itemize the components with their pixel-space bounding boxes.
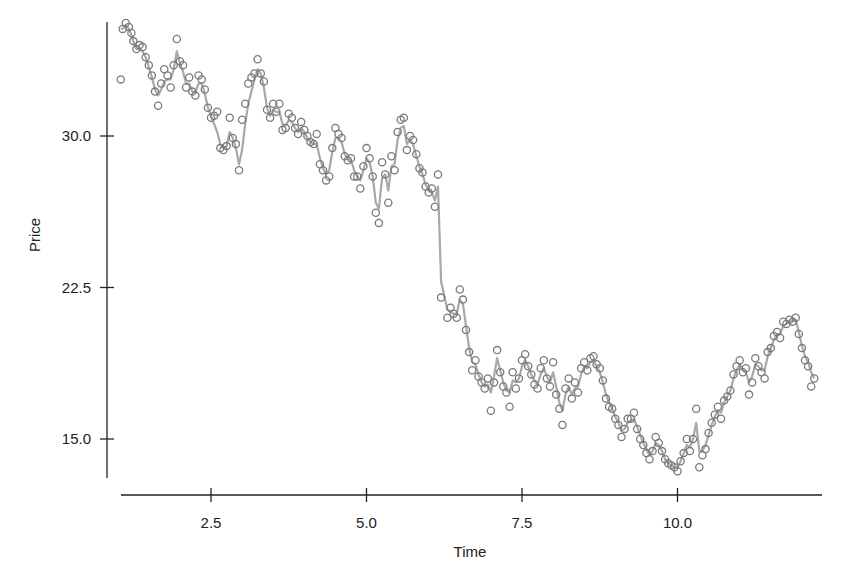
y-axis: 15.022.530.0 Price	[26, 22, 114, 478]
data-point-marker	[512, 385, 519, 392]
data-point-marker	[363, 145, 370, 152]
data-point-marker	[646, 456, 653, 463]
x-axis-title: Time	[454, 543, 487, 560]
data-point-marker	[226, 114, 233, 121]
data-point-marker	[574, 389, 581, 396]
x-tick-label: 5.0	[356, 514, 377, 531]
data-point-marker	[811, 375, 818, 382]
data-point-marker	[618, 433, 625, 440]
data-point-marker	[431, 203, 438, 210]
x-axis: 2.55.07.510.0 Time	[121, 488, 822, 560]
data-point-marker	[164, 72, 171, 79]
data-point-marker	[298, 118, 305, 125]
data-point-marker	[357, 185, 364, 192]
data-point-marker	[388, 153, 395, 160]
data-point-marker	[630, 409, 637, 416]
data-point-marker	[571, 379, 578, 386]
y-tick-label: 15.0	[62, 430, 91, 447]
data-point-marker	[117, 76, 124, 83]
data-point-marker	[714, 403, 721, 410]
smoothed-line	[121, 25, 815, 467]
data-point-marker	[379, 159, 386, 166]
data-point-marker	[522, 351, 529, 358]
data-point-marker	[717, 415, 724, 422]
y-tick-label: 22.5	[62, 279, 91, 296]
data-point-marker	[313, 130, 320, 137]
data-point-marker	[506, 403, 513, 410]
data-point-marker	[752, 355, 759, 362]
x-tick-label: 2.5	[201, 514, 222, 531]
data-point-marker	[254, 56, 261, 63]
data-point-marker	[469, 367, 476, 374]
data-point-marker	[235, 167, 242, 174]
data-point-marker	[186, 74, 193, 81]
data-point-marker	[173, 35, 180, 42]
plot-area	[117, 19, 818, 475]
x-tick-label: 7.5	[512, 514, 533, 531]
data-point-marker	[509, 369, 516, 376]
data-point-marker	[693, 405, 700, 412]
data-point-marker	[559, 421, 566, 428]
data-point-marker	[372, 209, 379, 216]
data-point-marker	[375, 219, 382, 226]
data-point-marker	[155, 102, 162, 109]
y-axis-ticks: 15.022.530.0	[62, 127, 114, 447]
data-point-marker	[456, 286, 463, 293]
data-point-marker	[540, 357, 547, 364]
observed-markers	[117, 19, 818, 475]
data-point-marker	[696, 464, 703, 471]
y-axis-title: Price	[26, 218, 43, 252]
x-tick-label: 10.0	[663, 514, 692, 531]
data-point-marker	[487, 407, 494, 414]
data-point-marker	[550, 359, 557, 366]
data-point-marker	[403, 147, 410, 154]
data-point-marker	[761, 375, 768, 382]
data-point-marker	[808, 383, 815, 390]
data-point-marker	[736, 357, 743, 364]
price-time-chart: 15.022.530.0 Price 2.55.07.510.0 Time	[0, 0, 844, 579]
data-point-marker	[385, 199, 392, 206]
data-point-marker	[745, 391, 752, 398]
y-tick-label: 30.0	[62, 127, 91, 144]
data-point-marker	[494, 347, 501, 354]
data-point-marker	[434, 171, 441, 178]
data-point-marker	[568, 395, 575, 402]
data-point-marker	[546, 383, 553, 390]
data-point-marker	[167, 84, 174, 91]
data-point-marker	[239, 116, 246, 123]
